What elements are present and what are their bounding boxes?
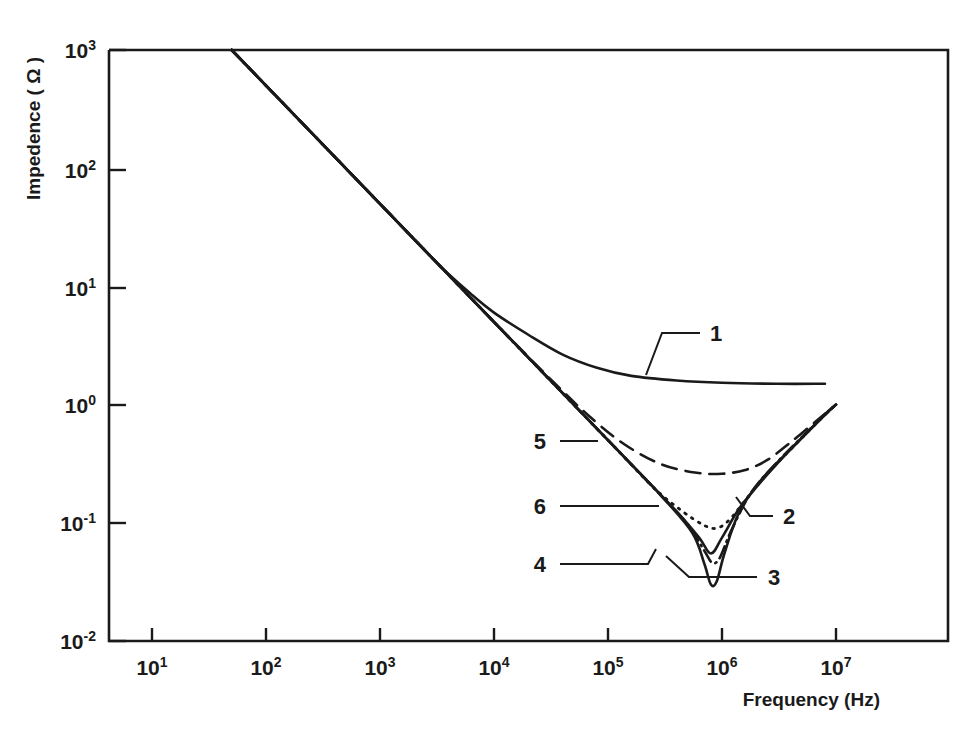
y-tick-label-1e0: 100	[65, 392, 96, 417]
chart-canvas: 103 102 101 100 10-1 10-2 101 102 103 10…	[0, 0, 978, 729]
curve-label-1: 1	[710, 321, 722, 346]
leader-line-3	[666, 556, 757, 577]
curve-6	[232, 50, 836, 529]
x-axis-ticks	[152, 628, 836, 641]
impedance-frequency-figure: 103 102 101 100 10-1 10-2 101 102 103 10…	[0, 0, 978, 729]
curve-1	[232, 50, 825, 384]
y-tick-label-1e2: 102	[65, 157, 96, 182]
x-tick-label-1e2: 102	[250, 654, 281, 679]
x-axis-title: Frequency (Hz)	[743, 689, 880, 710]
x-axis-tick-labels: 101 102 103 104 105 106 107	[136, 654, 851, 679]
plot-border	[109, 50, 948, 641]
curve-label-5: 5	[534, 429, 546, 454]
y-tick-label-1e1: 101	[65, 275, 96, 300]
y-tick-label-1e-2: 10-2	[60, 628, 96, 653]
curve-label-6: 6	[534, 494, 546, 519]
x-tick-label-1e7: 107	[820, 654, 851, 679]
curve-5	[232, 50, 836, 474]
curve-label-3: 3	[768, 565, 780, 590]
y-axis-ticks	[109, 50, 126, 641]
y-axis-title: Impedence ( Ω )	[23, 57, 44, 200]
x-tick-label-1e5: 105	[592, 654, 623, 679]
y-tick-label-1e3: 103	[65, 37, 96, 62]
curve-3	[232, 50, 836, 563]
curve-number-labels: 1 2 3 4 5 6	[534, 321, 796, 590]
curve-label-4: 4	[534, 552, 547, 577]
curve-label-2: 2	[783, 504, 795, 529]
leader-line-4	[560, 549, 656, 564]
x-tick-label-1e3: 103	[364, 654, 395, 679]
leader-line-1	[646, 333, 700, 375]
x-tick-label-1e1: 101	[136, 654, 167, 679]
curve-2	[232, 50, 836, 553]
curve-leader-lines	[560, 333, 773, 577]
y-axis-tick-labels: 103 102 101 100 10-1 10-2	[60, 37, 96, 653]
y-tick-label-1e-1: 10-1	[60, 510, 96, 535]
x-tick-label-1e4: 104	[478, 654, 509, 679]
x-tick-label-1e6: 106	[706, 654, 737, 679]
axis-frame	[109, 50, 948, 641]
